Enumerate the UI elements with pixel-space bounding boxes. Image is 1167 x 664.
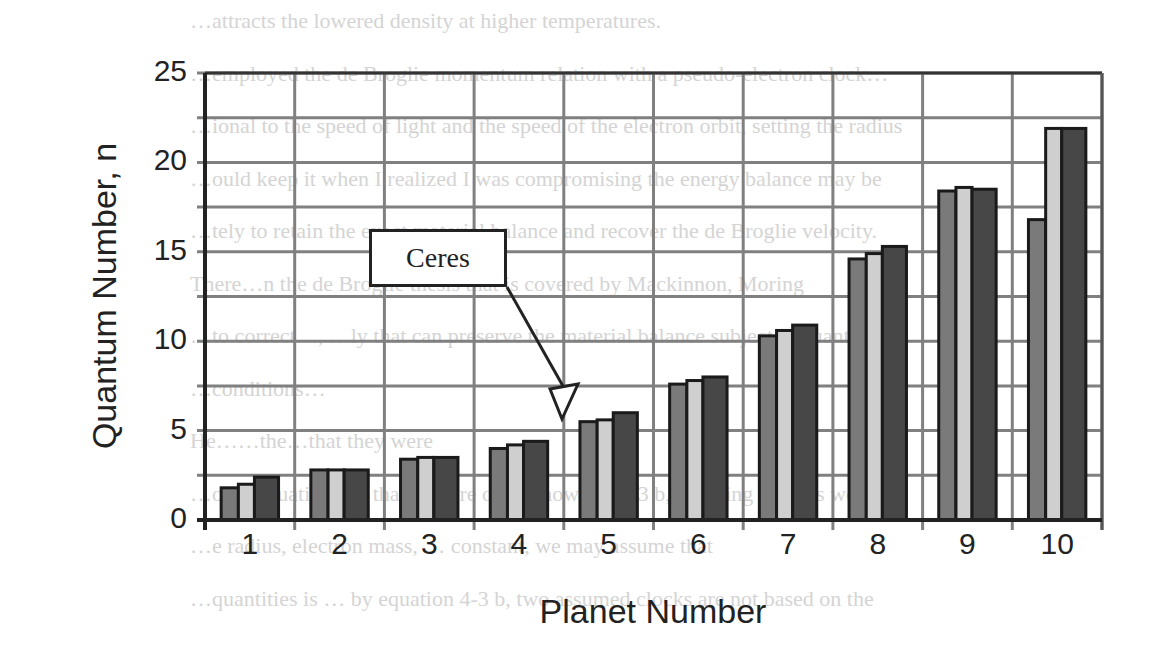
bar (1062, 128, 1086, 520)
x-tick-label: 9 (937, 527, 997, 561)
bar (972, 189, 996, 520)
bar (434, 457, 458, 520)
y-tick-label: 10 (127, 322, 187, 356)
ceres-callout: Ceres (369, 229, 507, 287)
bar (939, 191, 956, 520)
callout-text: Ceres (406, 242, 470, 274)
x-tick-label: 4 (489, 527, 549, 561)
bar (524, 441, 548, 520)
y-tick-label: 0 (127, 501, 187, 535)
ceres-arrow (507, 287, 578, 419)
y-tick-label: 5 (127, 412, 187, 446)
bar (670, 384, 687, 520)
bar (597, 420, 613, 520)
y-tick-label: 15 (127, 233, 187, 267)
y-tick-label: 25 (127, 54, 187, 88)
bar (254, 477, 278, 520)
bar (507, 445, 523, 520)
bar (490, 448, 507, 520)
x-tick-label: 5 (579, 527, 639, 561)
bar (221, 488, 238, 520)
x-tick-label: 1 (220, 527, 280, 561)
x-tick-label: 3 (399, 527, 459, 561)
bar (777, 330, 793, 520)
bar (956, 187, 972, 520)
bar (311, 470, 328, 520)
bar (687, 381, 703, 520)
x-tick-label: 6 (668, 527, 728, 561)
bar (344, 470, 368, 520)
x-tick-label: 8 (848, 527, 908, 561)
bar (793, 325, 817, 520)
bar (580, 422, 597, 520)
x-tick-label: 10 (1027, 527, 1087, 561)
x-axis-label: Planet Number (540, 592, 767, 631)
bar (238, 484, 254, 520)
arrow-head (550, 384, 578, 419)
bar (882, 246, 906, 520)
x-tick-label: 2 (310, 527, 370, 561)
bar (613, 413, 637, 520)
bar (1028, 220, 1045, 520)
y-axis-label: Quantum Number, n (85, 143, 124, 449)
x-tick-label: 7 (758, 527, 818, 561)
bar (703, 377, 727, 520)
y-tick-label: 20 (127, 143, 187, 177)
bar (401, 459, 418, 520)
bar (849, 259, 866, 520)
bar (418, 457, 434, 520)
bar (328, 470, 344, 520)
bar (866, 254, 882, 520)
chart-figure: …attracts the lowered density at higher … (0, 0, 1167, 664)
bar (759, 336, 776, 520)
bar (1046, 128, 1062, 520)
